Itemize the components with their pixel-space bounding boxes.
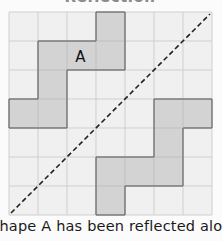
shape-reflected-cell [125,157,154,186]
reflection-grid: A [0,0,222,241]
shape-a-cell [9,99,38,128]
shape-a-label: A [75,48,86,66]
shape-a-cell [96,41,125,70]
shape-a-cell [38,99,67,128]
shape-a-cell [96,12,125,41]
shape-a-cell [38,70,67,99]
shape-reflected-cell [154,128,183,157]
shape-a-cell [38,41,67,70]
shape-reflected-cell [183,99,212,128]
caption-text: Shape A has been reflected along the [0,218,222,234]
shape-reflected-cell [96,186,125,215]
shape-reflected-cell [154,157,183,186]
shape-reflected-cell [154,99,183,128]
shape-reflected-cell [96,157,125,186]
